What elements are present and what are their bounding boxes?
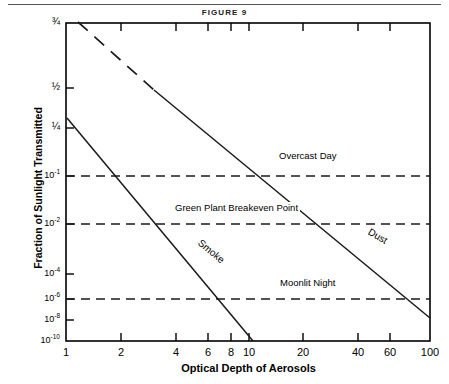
x-axis-ticks-top xyxy=(121,23,390,31)
y-tick-label-4: 10-2 xyxy=(16,219,60,228)
x-tick-label-0: 1 xyxy=(46,347,86,358)
y-tick-label-2: ¼ xyxy=(16,122,60,132)
y-tick-label-7: 10-8 xyxy=(16,315,60,324)
annotation-overcast-day: Overcast Day xyxy=(277,150,339,161)
y-tick-label-5: 10-4 xyxy=(16,269,60,278)
x-tick-label-6: 20 xyxy=(283,347,323,358)
series-line-smoke xyxy=(67,118,253,341)
x-tick-label-5: 10 xyxy=(229,347,269,358)
x-axis-ticks-bottom xyxy=(121,333,390,341)
y-tick-label-6: 10-6 xyxy=(16,294,60,303)
y-axis-ticks xyxy=(66,88,74,320)
chart-plot-area xyxy=(0,0,449,384)
x-tick-label-1: 2 xyxy=(101,347,141,358)
series-line-dust-dashed-extension xyxy=(78,22,154,90)
y-tick-label-0: ¾ xyxy=(16,17,60,27)
y-tick-label-3: 10-1 xyxy=(16,171,60,180)
y-tick-label-8: 10-10 xyxy=(10,336,60,345)
figure-container: FIGURE 9 xyxy=(0,0,449,384)
x-tick-label-9: 100 xyxy=(410,347,449,358)
x-axis-title: Optical Depth of Aerosols xyxy=(66,362,431,374)
y-axis-title: Fraction of Sunlight Transmitted xyxy=(32,88,44,288)
annotation-moonlit-night: Moonlit Night xyxy=(278,277,337,288)
annotation-green-plant-breakeven-point: Green Plant Breakeven Point xyxy=(173,202,300,213)
y-tick-label-1: ½ xyxy=(16,82,60,92)
x-tick-label-8: 60 xyxy=(370,347,410,358)
